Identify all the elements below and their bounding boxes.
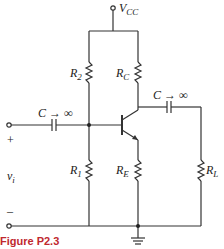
- output-cap-label: C → ∞: [153, 88, 188, 102]
- input-plus: +: [7, 133, 14, 147]
- re-resistor: [135, 160, 141, 181]
- rl-label: RL: [205, 163, 218, 179]
- vi-label: vi: [7, 169, 15, 185]
- junction-dot: [87, 123, 91, 127]
- rc-label: RC: [115, 66, 130, 82]
- re-label: RE: [115, 163, 129, 179]
- circuit-diagram: VCC R2 RC R1 RE RL C → ∞ C → ∞ + – vi Fi…: [0, 0, 224, 249]
- input-terminal-minus: [7, 224, 11, 228]
- junction-dot: [136, 224, 140, 228]
- r1-resistor: [86, 160, 92, 181]
- rc-resistor: [135, 62, 141, 83]
- r1-label: R1: [69, 163, 82, 179]
- r2-label: R2: [69, 66, 82, 82]
- figure-caption: Figure P2.3: [0, 235, 59, 247]
- vcc-label: VCC: [119, 1, 139, 17]
- vcc-terminal: [111, 6, 115, 10]
- input-minus: –: [6, 204, 14, 218]
- rl-resistor: [198, 160, 204, 181]
- input-terminal-plus: [7, 123, 11, 127]
- r2-resistor: [86, 62, 92, 83]
- input-cap-label: C → ∞: [38, 106, 73, 120]
